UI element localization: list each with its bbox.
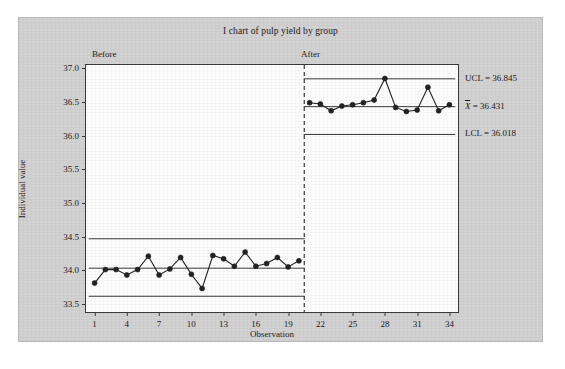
x-tick-label: 22 — [316, 312, 325, 329]
data-point — [253, 264, 258, 269]
y-tick-label: 37.0 — [33, 63, 86, 73]
data-point — [404, 109, 409, 114]
x-tick-label: 25 — [348, 312, 357, 329]
plot-panel: 33.534.034.535.035.536.036.537.0 1471013… — [85, 64, 459, 313]
data-point — [307, 100, 312, 105]
data-point — [114, 267, 119, 272]
x-tick-label: 31 — [413, 312, 422, 329]
annotation-center-equals: = — [471, 101, 481, 111]
data-point — [350, 102, 355, 107]
chart-figure: I chart of pulp yield by group Before Af… — [18, 17, 543, 342]
data-point — [200, 286, 205, 291]
data-point — [178, 255, 183, 260]
data-point — [361, 100, 366, 105]
data-point — [189, 272, 194, 277]
data-point — [318, 102, 323, 107]
x-tick-label: 1 — [92, 312, 97, 329]
series-line-before — [95, 252, 299, 288]
x-axis-label: Observation — [85, 329, 459, 339]
data-point — [425, 85, 430, 90]
data-point — [135, 267, 140, 272]
x-tick-label: 16 — [251, 312, 260, 329]
data-point — [447, 102, 452, 107]
y-tick-label: 34.0 — [33, 265, 86, 275]
data-point — [382, 76, 387, 81]
annotation-center-value: 36.431 — [480, 101, 505, 111]
x-tick-label: 4 — [125, 312, 130, 329]
data-point — [436, 108, 441, 113]
data-point — [329, 108, 334, 113]
x-tick-label: 10 — [187, 312, 196, 329]
data-point — [124, 272, 129, 277]
y-tick-label: 34.5 — [33, 232, 86, 242]
data-point — [296, 258, 301, 263]
y-tick-label: 35.0 — [33, 198, 86, 208]
y-tick-label: 33.5 — [33, 299, 86, 309]
y-tick-label: 35.5 — [33, 164, 86, 174]
data-point — [415, 108, 420, 113]
data-point — [167, 266, 172, 271]
y-tick-label: 36.0 — [33, 131, 86, 141]
group-label-before: Before — [92, 49, 117, 59]
annotation-center-line: X = 36.431 — [465, 101, 505, 111]
data-point — [393, 105, 398, 110]
data-point — [264, 261, 269, 266]
data-point — [339, 104, 344, 109]
data-point — [103, 267, 108, 272]
annotation-lcl: LCL = 36.018 — [465, 128, 516, 138]
x-tick-label: 19 — [284, 312, 293, 329]
x-tick-label: 34 — [445, 312, 454, 329]
x-tick-label: 28 — [380, 312, 389, 329]
group-label-after: After — [301, 49, 320, 59]
data-point — [92, 281, 97, 286]
data-point — [221, 256, 226, 261]
data-point — [210, 253, 215, 258]
data-point — [275, 255, 280, 260]
data-point — [157, 272, 162, 277]
data-point — [232, 264, 237, 269]
annotation-ucl: UCL = 36.845 — [465, 73, 517, 83]
chart-title: I chart of pulp yield by group — [19, 26, 542, 36]
chart-plot-area — [86, 65, 458, 312]
data-point — [243, 250, 248, 255]
data-point — [146, 254, 151, 259]
y-axis-label: Individual value — [15, 64, 29, 313]
data-point — [372, 97, 377, 102]
y-axis-label-text: Individual value — [17, 159, 27, 218]
data-point — [286, 264, 291, 269]
x-tick-label: 13 — [219, 312, 228, 329]
y-tick-label: 36.5 — [33, 97, 86, 107]
x-bar-symbol: X — [465, 101, 471, 111]
x-tick-label: 7 — [157, 312, 162, 329]
